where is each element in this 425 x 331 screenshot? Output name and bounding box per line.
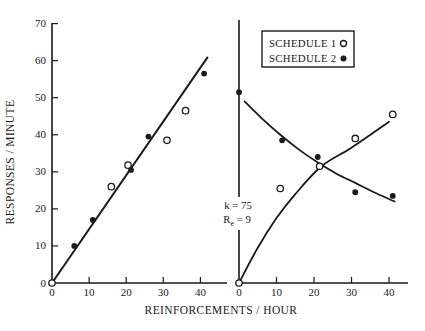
data-point-open-schedule-1 xyxy=(108,183,114,189)
data-point-open-schedule-1 xyxy=(277,185,283,191)
legend-item-schedule-2: SCHEDULE 2 xyxy=(269,52,336,64)
legend-item-schedule-1: SCHEDULE 1 xyxy=(269,37,336,49)
data-point-filled-schedule-2 xyxy=(390,193,396,199)
y-axis-label: RESPONSES / MINUTE xyxy=(4,100,16,225)
x-tick-label: 40 xyxy=(195,286,207,298)
data-point-open-schedule-1 xyxy=(316,163,322,169)
data-point-filled-schedule-2 xyxy=(90,217,96,223)
y-tick-label: 60 xyxy=(35,54,47,66)
curve-schedule-2 xyxy=(245,101,395,201)
annotation-k: k = 75 xyxy=(224,199,252,211)
x-tick-label: 40 xyxy=(384,286,396,298)
x-tick-label: 20 xyxy=(121,286,133,298)
data-point-filled-schedule-2 xyxy=(315,154,321,160)
x-tick-label: 20 xyxy=(309,286,321,298)
curve-schedule-1 xyxy=(239,122,389,283)
data-point-filled-schedule-2 xyxy=(236,89,242,95)
y-tick-label: 70 xyxy=(35,17,47,29)
y-tick-label: 10 xyxy=(35,239,47,251)
x-tick-label: 10 xyxy=(84,286,96,298)
x-tick-label: 30 xyxy=(346,286,358,298)
open-circle-marker-icon xyxy=(341,41,347,47)
y-tick-label: 20 xyxy=(35,202,47,214)
x-tick-label: 0 xyxy=(236,286,242,298)
data-point-filled-schedule-2 xyxy=(146,134,152,140)
data-point-open-schedule-1 xyxy=(49,280,55,286)
data-point-filled-schedule-2 xyxy=(128,167,134,173)
filled-circle-marker-icon xyxy=(341,56,347,62)
data-point-filled-schedule-2 xyxy=(279,137,285,143)
data-point-open-schedule-1 xyxy=(182,107,188,113)
x-tick-label: 10 xyxy=(271,286,283,298)
y-tick-label: 40 xyxy=(35,128,47,140)
legend: SCHEDULE 1 SCHEDULE 2 xyxy=(262,31,354,67)
data-point-open-schedule-1 xyxy=(390,111,396,117)
y-tick-label: 50 xyxy=(35,91,47,103)
figure-canvas: 010203040010203040506070010203040 RESPON… xyxy=(0,0,425,331)
data-point-open-schedule-1 xyxy=(236,280,242,286)
data-point-filled-schedule-2 xyxy=(352,189,358,195)
x-tick-label: 30 xyxy=(158,286,170,298)
data-point-filled-schedule-2 xyxy=(71,243,77,249)
data-point-open-schedule-1 xyxy=(352,135,358,141)
y-tick-label: 30 xyxy=(35,165,47,177)
annotation: k = 75 Re = 9 xyxy=(216,197,260,230)
data-point-filled-schedule-2 xyxy=(201,71,207,77)
data-point-open-schedule-1 xyxy=(164,137,170,143)
y-tick-label: 0 xyxy=(41,277,47,289)
x-axis-label: REINFORCEMENTS / HOUR xyxy=(145,304,298,316)
figure: 010203040010203040506070010203040 RESPON… xyxy=(0,0,425,331)
x-tick-label: 0 xyxy=(49,286,55,298)
